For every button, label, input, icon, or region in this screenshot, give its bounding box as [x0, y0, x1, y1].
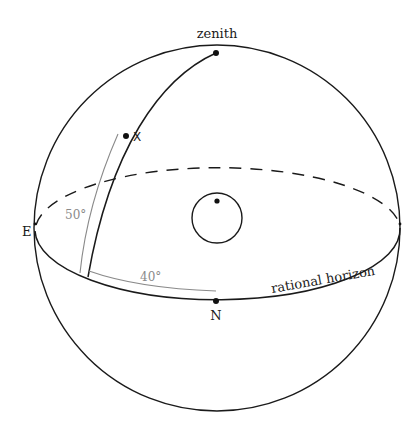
horizon-label: rational horizon: [270, 263, 377, 296]
zenith-point: [213, 50, 219, 56]
altitude-label: 50°: [65, 208, 86, 222]
east-label: E: [22, 224, 32, 239]
zenith-label: zenith: [197, 26, 238, 41]
vertical-circle-arc: [88, 53, 216, 277]
west-point: [399, 223, 402, 226]
point-x-label: X: [133, 130, 141, 144]
celestial-sphere: [34, 45, 400, 411]
altitude-measure-arc: [80, 134, 118, 273]
east-point: [34, 223, 37, 226]
north-point: [213, 298, 219, 304]
point-x: [123, 133, 129, 139]
observer-point: [214, 198, 219, 203]
north-label: N: [210, 308, 221, 323]
celestial-sphere-diagram: zenith X E N 50° 40° rational horizon: [0, 0, 417, 441]
horizon-back-dashed: [36, 168, 400, 225]
azimuth-label: 40°: [140, 270, 161, 284]
